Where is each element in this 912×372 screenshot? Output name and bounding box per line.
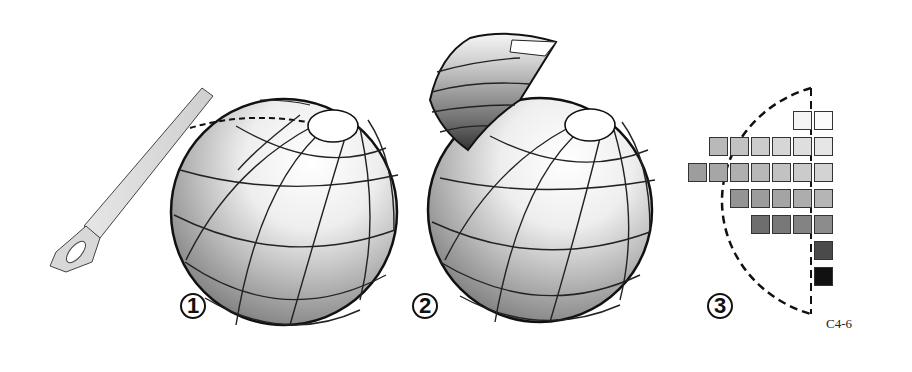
grid-cell [772, 215, 791, 234]
panel-number-1: 1 [180, 293, 206, 319]
grid-cell [751, 215, 770, 234]
panel-number-3: 3 [707, 293, 733, 319]
grid-cell [814, 111, 833, 130]
grid-cell [730, 137, 749, 156]
grid-cell [814, 215, 833, 234]
figure-code: C4-6 [826, 316, 852, 332]
illustration [0, 0, 912, 372]
grid-cell [751, 189, 770, 208]
grid-cell [730, 163, 749, 182]
grid-cell [793, 189, 812, 208]
grid-cell [751, 163, 770, 182]
grid-cell [814, 189, 833, 208]
grid-cell [793, 215, 812, 234]
panel-number-2: 2 [412, 293, 438, 319]
grid-cell [688, 163, 707, 182]
grid-cell [814, 267, 833, 286]
grid-cell [814, 137, 833, 156]
grid-cell [793, 163, 812, 182]
grid-cell [709, 137, 728, 156]
grid-cell [709, 163, 728, 182]
grid-cell [772, 163, 791, 182]
grid-cell [814, 241, 833, 260]
grid-cell [793, 111, 812, 130]
grid-cell [730, 189, 749, 208]
grid-cell [793, 137, 812, 156]
grid-cell [772, 137, 791, 156]
figure-stage: 1 2 3 C4-6 [0, 0, 912, 372]
grid-cell [751, 137, 770, 156]
grid-cell [772, 189, 791, 208]
grid-cell [814, 163, 833, 182]
sphere-1 [171, 99, 398, 325]
